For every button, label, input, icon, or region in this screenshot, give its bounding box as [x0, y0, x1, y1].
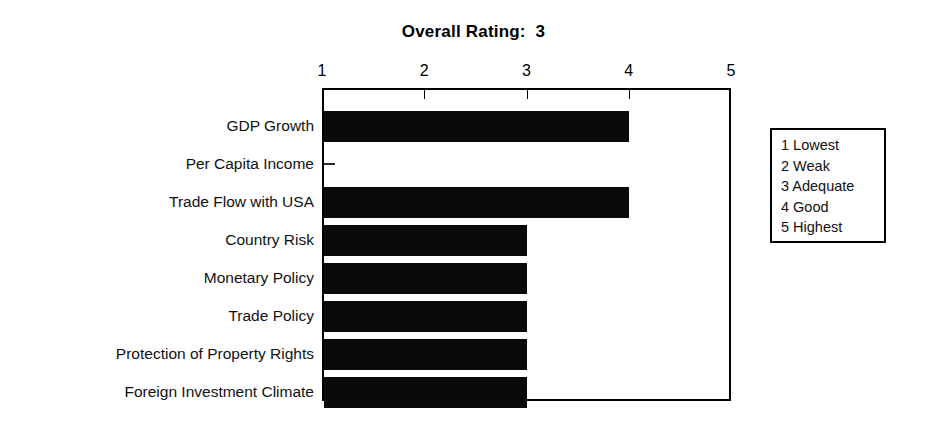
x-axis-tick-mark — [629, 90, 630, 99]
bar-row: Foreign Investment Climate — [0, 377, 947, 408]
legend-item: 3 Adequate — [781, 176, 884, 197]
x-axis-tick-mark — [527, 90, 528, 99]
legend-item: 2 Weak — [781, 156, 884, 177]
bar-category-label: Trade Flow with USA — [169, 191, 314, 213]
legend-item: 4 Good — [781, 197, 884, 218]
bar-row: Trade Policy — [0, 301, 947, 332]
bar-zero-stub — [324, 163, 335, 165]
bar-row: Protection of Property Rights — [0, 339, 947, 370]
bar-category-label: Protection of Property Rights — [116, 343, 314, 365]
bar — [324, 225, 527, 256]
bar — [324, 301, 527, 332]
bar — [324, 263, 527, 294]
bar-chart-figure: Overall Rating: 3 12345 GDP GrowthPer Ca… — [0, 0, 947, 443]
bar-category-label: Monetary Policy — [204, 267, 314, 289]
bar — [324, 339, 527, 370]
bar-category-label: GDP Growth — [226, 115, 314, 137]
bar — [324, 377, 527, 408]
bar-category-label: Per Capita Income — [186, 153, 314, 175]
legend-item: 5 Highest — [781, 217, 884, 238]
bar-row: Monetary Policy — [0, 263, 947, 294]
legend-item: 1 Lowest — [781, 135, 884, 156]
rating-scale-legend: 1 Lowest2 Weak3 Adequate4 Good5 Highest — [770, 128, 886, 243]
bar — [324, 111, 629, 142]
x-axis-tick-mark — [424, 90, 425, 99]
bar-category-label: Trade Policy — [228, 305, 314, 327]
bar — [324, 187, 629, 218]
bar-category-label: Foreign Investment Climate — [124, 381, 314, 403]
bar-category-label: Country Risk — [225, 229, 314, 251]
